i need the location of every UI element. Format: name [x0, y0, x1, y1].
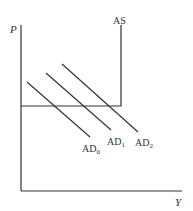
ad1-label: AD1	[107, 136, 125, 149]
as-curve	[21, 25, 121, 106]
ad2-label: AD2	[135, 137, 153, 150]
y-axis-label: P	[9, 23, 17, 35]
ad0-label: AD0	[82, 143, 100, 156]
as-label: AS	[113, 15, 126, 26]
ad-as-diagram: P Y AS AD0 AD1 AD2	[0, 0, 193, 211]
x-axis-label: Y	[175, 196, 183, 208]
ad1-curve	[46, 73, 111, 130]
ad0-curve	[27, 82, 90, 137]
